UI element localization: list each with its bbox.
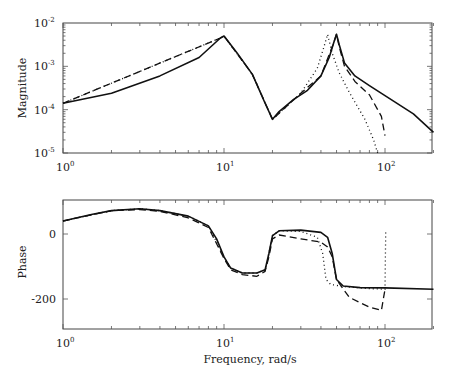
- phase-axis-label: Phase: [16, 245, 29, 278]
- series-solid-line: [63, 34, 434, 132]
- y-tick-1e-2: 10-2: [34, 16, 55, 30]
- y-tick-0: 0: [49, 228, 56, 241]
- y-tick-1e-3: 10-3: [34, 59, 55, 73]
- magnitude-x-ticks: 100 101 102: [56, 160, 395, 174]
- magnitude-axes-frame: [63, 23, 432, 153]
- y-tick-1e-5: 10-5: [34, 146, 55, 160]
- frequency-axis-label: Frequency, rad/s: [203, 353, 297, 366]
- magnitude-series: [63, 34, 434, 153]
- y-tick-1e-4: 10-4: [34, 103, 55, 117]
- x-tick-1e1: 101: [216, 336, 234, 350]
- x-tick-1e0: 100: [56, 336, 74, 350]
- magnitude-panel: 10-2 10-3 10-4 10-5 100 101 102 Magnitud…: [16, 16, 434, 174]
- x-tick-1e2: 102: [377, 336, 395, 350]
- magnitude-axis-label: Magnitude: [16, 58, 29, 119]
- phase-panel: 0 -200 100 101 102 Phase Frequency, rad/…: [16, 200, 434, 366]
- bode-plot: 10-2 10-3 10-4 10-5 100 101 102 Magnitud…: [0, 0, 452, 381]
- phase-series: [63, 209, 434, 311]
- series-dashed-line: [63, 34, 385, 135]
- x-tick-1e2: 102: [377, 160, 395, 174]
- x-tick-1e1: 101: [216, 160, 234, 174]
- y-tick-minus-200: -200: [31, 293, 56, 306]
- x-tick-1e0: 100: [56, 160, 74, 174]
- phase-y-ticks: 0 -200: [31, 228, 56, 306]
- magnitude-y-ticks: 10-2 10-3 10-4 10-5: [34, 16, 55, 160]
- series-dotted-line: [63, 209, 386, 290]
- phase-x-ticks: 100 101 102: [56, 336, 395, 350]
- series-solid-line: [63, 209, 434, 290]
- series-dashed-line: [63, 210, 385, 311]
